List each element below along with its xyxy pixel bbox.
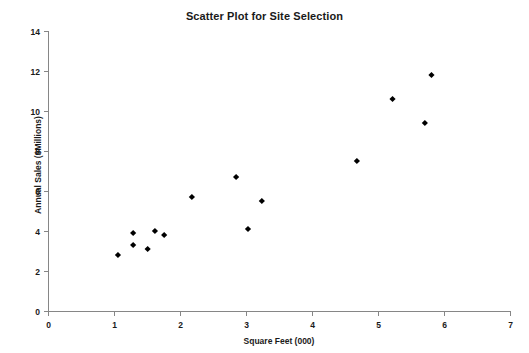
- x-axis-ticks: 01234567: [46, 311, 513, 330]
- data-point: [428, 72, 434, 78]
- scatter-plot-figure: Scatter Plot for Site Selection 02468101…: [0, 0, 529, 353]
- data-point: [130, 242, 136, 248]
- x-axis-title: Square Feet (000): [48, 336, 510, 346]
- x-tick-label: 4: [310, 320, 315, 330]
- data-point: [189, 194, 195, 200]
- y-tick-label: 0: [35, 307, 40, 317]
- data-points-group: [115, 72, 435, 258]
- x-tick-label: 3: [244, 320, 249, 330]
- x-tick-label: 2: [178, 320, 183, 330]
- x-tick-label: 6: [442, 320, 447, 330]
- data-point: [152, 228, 158, 234]
- data-point: [245, 226, 251, 232]
- data-point: [354, 158, 360, 164]
- x-tick-label: 0: [46, 320, 51, 330]
- plot-area: 02468101214 01234567: [0, 0, 529, 353]
- data-point: [422, 120, 428, 126]
- data-point: [233, 174, 239, 180]
- data-point: [161, 232, 167, 238]
- data-point: [130, 230, 136, 236]
- data-point: [115, 252, 121, 258]
- x-tick-label: 7: [508, 320, 513, 330]
- y-axis-title: Annual Sales ($Millions): [33, 45, 43, 285]
- data-point: [259, 198, 265, 204]
- y-tick-label: 14: [31, 27, 41, 37]
- x-tick-label: 1: [112, 320, 117, 330]
- data-point: [145, 246, 151, 252]
- data-point: [389, 96, 395, 102]
- x-tick-label: 5: [376, 320, 381, 330]
